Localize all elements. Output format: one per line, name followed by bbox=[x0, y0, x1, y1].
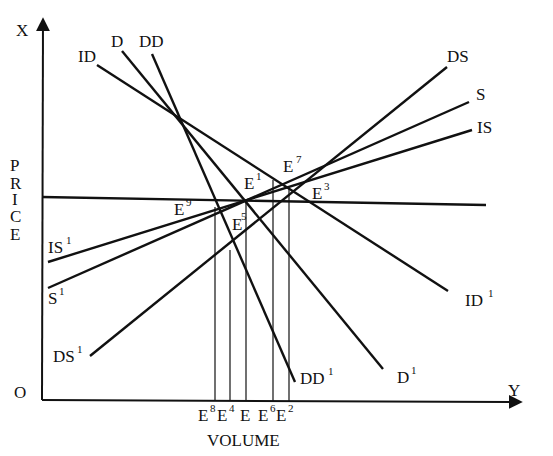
svg-text:E: E bbox=[198, 406, 208, 425]
label-dd: DD bbox=[139, 32, 164, 51]
svg-text:2: 2 bbox=[288, 402, 294, 414]
tick-e4: E 4 bbox=[217, 402, 235, 425]
svg-text:8: 8 bbox=[210, 402, 216, 414]
svg-text:9: 9 bbox=[186, 196, 192, 208]
svg-text:E: E bbox=[258, 406, 268, 425]
svg-text:E: E bbox=[276, 406, 286, 425]
label-is1: IS 1 bbox=[48, 234, 72, 257]
price-axis-title: P R I C E bbox=[10, 156, 22, 244]
svg-text:E: E bbox=[174, 200, 184, 219]
svg-text:1: 1 bbox=[59, 285, 65, 297]
svg-text:3: 3 bbox=[324, 180, 330, 192]
volume-axis-title: VOLUME bbox=[207, 431, 280, 450]
svg-text:1: 1 bbox=[77, 343, 83, 355]
svg-text:ID: ID bbox=[465, 291, 483, 310]
label-is: IS bbox=[477, 118, 492, 137]
svg-text:E: E bbox=[240, 406, 250, 425]
svg-text:1: 1 bbox=[488, 287, 494, 299]
svg-text:1: 1 bbox=[66, 234, 72, 246]
axis-label-y: Y bbox=[508, 381, 520, 400]
volume-drop-lines bbox=[215, 180, 289, 401]
curve-d bbox=[122, 51, 383, 369]
label-ds: DS bbox=[447, 47, 469, 66]
axis-label-x: X bbox=[16, 21, 28, 40]
svg-text:E: E bbox=[312, 184, 322, 203]
volume-axis bbox=[42, 400, 520, 402]
label-dd1: DD 1 bbox=[300, 365, 334, 388]
svg-text:1: 1 bbox=[411, 364, 417, 376]
svg-text:D: D bbox=[397, 368, 409, 387]
svg-text:IS: IS bbox=[48, 238, 63, 257]
supply-demand-diagram: X Y O P R I C E VOLUME ID D DD DS S IS I… bbox=[0, 0, 553, 456]
point-e3: E 3 bbox=[312, 180, 330, 203]
svg-text:7: 7 bbox=[296, 153, 302, 165]
label-s: S bbox=[476, 85, 485, 104]
svg-text:E: E bbox=[244, 174, 254, 193]
svg-text:P: P bbox=[10, 156, 19, 175]
curve-ds bbox=[90, 67, 447, 356]
svg-text:DS: DS bbox=[53, 347, 75, 366]
point-e7: E 7 bbox=[283, 153, 302, 176]
price-axis bbox=[42, 20, 43, 400]
volume-tick-labels: E 8 E 4 E E 6 E 2 bbox=[198, 402, 294, 425]
tick-e6: E 6 bbox=[258, 402, 276, 425]
curve-is bbox=[48, 130, 472, 262]
label-ds1: DS 1 bbox=[53, 343, 83, 366]
tick-e8: E 8 bbox=[198, 402, 216, 425]
curve-s bbox=[48, 102, 469, 288]
label-s1: S 1 bbox=[48, 285, 65, 308]
svg-text:4: 4 bbox=[229, 402, 235, 414]
svg-text:E: E bbox=[217, 406, 227, 425]
svg-text:1: 1 bbox=[328, 365, 334, 377]
svg-text:E: E bbox=[283, 157, 293, 176]
label-d: D bbox=[111, 32, 123, 51]
axes bbox=[42, 20, 520, 402]
label-id: ID bbox=[78, 47, 96, 66]
tick-e2: E 2 bbox=[276, 402, 294, 425]
svg-text:S: S bbox=[48, 289, 57, 308]
svg-text:5: 5 bbox=[241, 210, 247, 222]
price-level-line bbox=[42, 197, 486, 205]
point-e1: E 1 bbox=[244, 170, 262, 193]
point-e9: E 9 bbox=[174, 196, 192, 219]
svg-text:DD: DD bbox=[300, 369, 325, 388]
label-id1: ID 1 bbox=[465, 287, 494, 310]
svg-text:C: C bbox=[10, 207, 21, 226]
svg-text:1: 1 bbox=[256, 170, 262, 182]
label-d1: D 1 bbox=[397, 364, 417, 387]
origin-label: O bbox=[14, 383, 26, 402]
svg-text:E: E bbox=[10, 225, 20, 244]
tick-e: E bbox=[240, 406, 250, 425]
